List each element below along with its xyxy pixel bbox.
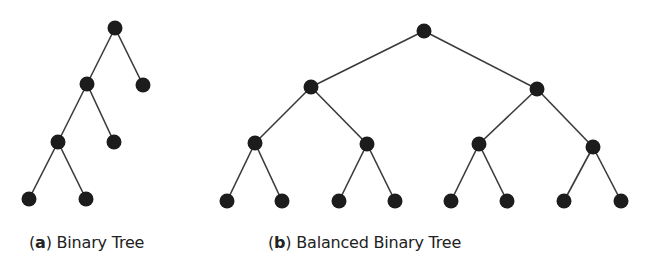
caption-text-b: Balanced Binary Tree bbox=[296, 233, 461, 252]
tree-edge bbox=[593, 147, 621, 201]
tree-node bbox=[614, 194, 629, 209]
tree-node bbox=[108, 21, 123, 36]
tree-edge bbox=[424, 31, 537, 89]
tree-edge bbox=[367, 144, 395, 201]
tree-node bbox=[248, 136, 263, 151]
tree-edge bbox=[479, 89, 537, 144]
tree-edge bbox=[115, 28, 143, 85]
tree-node bbox=[51, 135, 66, 150]
caption-label-a: a bbox=[35, 233, 46, 252]
tree-node bbox=[500, 194, 515, 209]
tree-edge bbox=[451, 144, 479, 201]
tree-edge bbox=[255, 143, 282, 201]
tree-edge bbox=[29, 142, 58, 199]
tree-edge bbox=[537, 89, 593, 147]
tree-node bbox=[557, 194, 572, 209]
tree-node bbox=[417, 24, 432, 39]
tree-edge bbox=[87, 28, 115, 84]
binary-tree-a bbox=[22, 21, 151, 207]
caption-text-a: Binary Tree bbox=[57, 233, 145, 252]
tree-node bbox=[530, 82, 545, 97]
tree-edge bbox=[58, 142, 86, 199]
tree-node bbox=[136, 78, 151, 93]
tree-node bbox=[444, 194, 459, 209]
tree-node bbox=[107, 135, 122, 150]
tree-edge bbox=[227, 143, 255, 201]
tree-node bbox=[586, 140, 601, 155]
tree-node bbox=[360, 137, 375, 152]
tree-node bbox=[220, 194, 235, 209]
tree-node bbox=[275, 194, 290, 209]
tree-node bbox=[80, 77, 95, 92]
tree-node bbox=[79, 192, 94, 207]
tree-node bbox=[388, 194, 403, 209]
tree-edge bbox=[255, 87, 311, 143]
tree-edge bbox=[479, 144, 507, 201]
tree-edge bbox=[564, 147, 593, 201]
tree-edge bbox=[87, 84, 114, 142]
caption-binary-tree: (a) Binary Tree bbox=[29, 233, 144, 252]
tree-edge bbox=[311, 31, 424, 87]
tree-diagram bbox=[0, 0, 657, 272]
tree-node bbox=[22, 192, 37, 207]
tree-edge bbox=[311, 87, 367, 144]
balanced-binary-tree-b bbox=[220, 24, 629, 209]
tree-node bbox=[332, 194, 347, 209]
tree-node bbox=[304, 80, 319, 95]
tree-edge bbox=[58, 84, 87, 142]
tree-node bbox=[472, 137, 487, 152]
caption-balanced-binary-tree: (b) Balanced Binary Tree bbox=[268, 233, 461, 252]
caption-label-b: b bbox=[274, 233, 285, 252]
tree-edge bbox=[339, 144, 367, 201]
